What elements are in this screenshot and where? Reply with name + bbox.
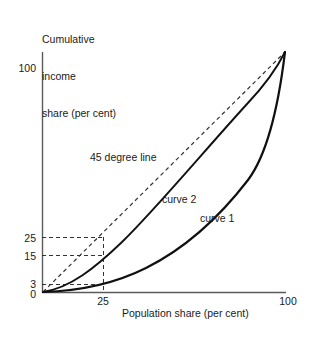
y-axis-title-line-3: share (per cent) [42, 107, 116, 119]
lorenz-curve-figure: Cumulative income share (per cent) 100 2… [0, 0, 316, 338]
annotation-curve-1: curve 1 [200, 212, 234, 224]
y-tick-label-100: 100 [10, 62, 36, 74]
y-tick-label-25: 25 [10, 232, 36, 244]
y-axis-title-line-1: Cumulative [42, 33, 116, 45]
x-axis-title: Population share (per cent) [122, 307, 249, 319]
annotation-45-degree-line: 45 degree line [90, 151, 157, 163]
x-tick-label-25: 25 [93, 295, 113, 307]
y-axis-title: Cumulative income share (per cent) [42, 9, 116, 143]
annotation-curve-2: curve 2 [162, 193, 196, 205]
y-axis-title-line-2: income [42, 70, 116, 82]
y-tick-label-15: 15 [10, 250, 36, 262]
x-tick-label-100: 100 [276, 295, 300, 307]
curves-apex-point [284, 51, 286, 53]
y-tick-label-0: 0 [10, 288, 36, 300]
